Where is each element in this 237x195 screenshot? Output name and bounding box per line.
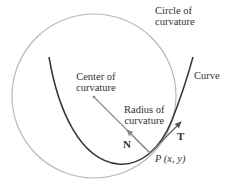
curvature-diagram (0, 0, 237, 195)
tangent-label: T (177, 131, 184, 142)
radius-label-line2: curvature (124, 115, 165, 126)
center-of-curvature-dot (93, 96, 96, 99)
circle-label-line2: curvature (155, 16, 195, 27)
normal-label: N (123, 139, 131, 150)
radius-label-line1: Radius of (124, 104, 165, 115)
circle-label: Circle of curvature (155, 5, 195, 27)
center-label: Center of curvature (76, 71, 116, 93)
radius-label: Radius of curvature (124, 104, 165, 126)
point-label: P (x, y) (155, 153, 185, 164)
curve-label: Curve (194, 70, 220, 81)
center-label-line2: curvature (76, 82, 116, 93)
curve (49, 57, 193, 164)
circle-label-line1: Circle of (155, 5, 195, 16)
center-label-line1: Center of (76, 71, 116, 82)
